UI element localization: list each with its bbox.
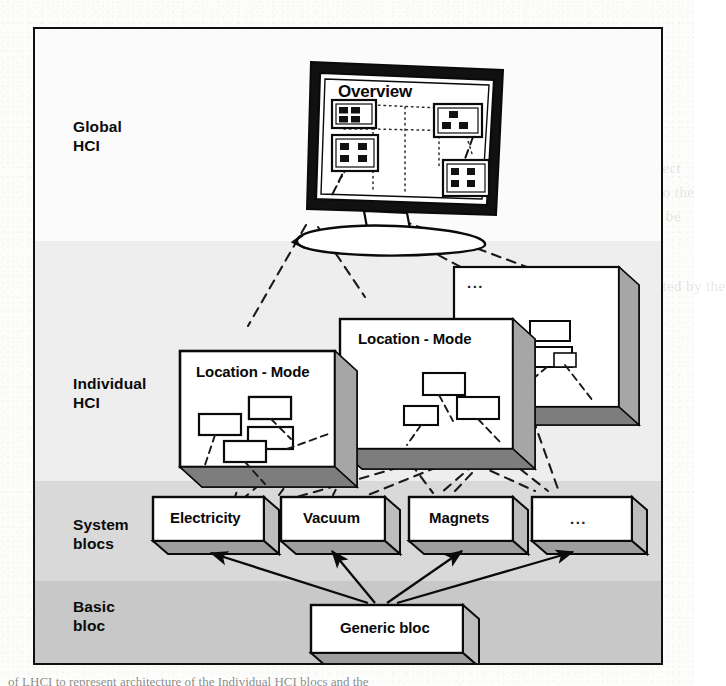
- system-bloc-more: [532, 497, 647, 554]
- system-bloc-electricity-label: Electricity: [170, 509, 241, 526]
- mini-window-3: [434, 104, 482, 137]
- panel-back-title: ...: [467, 274, 484, 291]
- mini-window-4: [443, 160, 489, 196]
- layer-label-system-blocs: System blocs: [73, 515, 129, 553]
- panel-front-title: Location - Mode: [196, 363, 310, 380]
- layer-label-global-hci: Global HCI: [73, 117, 122, 155]
- basic-bloc-generic-label: Generic bloc: [340, 619, 430, 636]
- panel-middle-title: Location - Mode: [358, 330, 472, 347]
- mini-window-2: [332, 135, 378, 171]
- system-bloc-magnets-label: Magnets: [429, 509, 489, 526]
- figure-drawing: [35, 29, 663, 665]
- figure-frame: Overview Location - Mode Location - Mode…: [33, 27, 663, 665]
- system-bloc-vacuum-label: Vacuum: [303, 509, 360, 526]
- layer-label-basic-bloc: Basic bloc: [73, 597, 115, 635]
- system-bloc-more-label: ...: [570, 510, 587, 527]
- layer-label-individual-hci: Individual HCI: [73, 374, 146, 412]
- link-basic-to-system: [211, 551, 573, 603]
- mini-window-1: [332, 100, 376, 128]
- figure-caption: of LHCI to represent architecture of the…: [8, 674, 688, 686]
- overview-screen-title: Overview: [338, 82, 412, 102]
